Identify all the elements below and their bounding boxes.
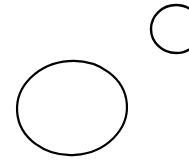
small-circle [151, 5, 189, 53]
drawing-canvas [0, 0, 189, 168]
large-ellipse [14, 57, 130, 158]
